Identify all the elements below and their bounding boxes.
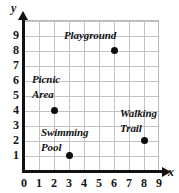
point-label-line: Trail	[120, 123, 157, 135]
y-tick-9: 9	[6, 29, 19, 41]
y-axis-arrow-icon	[18, 11, 28, 20]
x-tick-4: 4	[78, 177, 90, 189]
y-tick-5: 5	[6, 89, 19, 101]
point-label-line: Playground	[64, 30, 116, 42]
data-point	[111, 47, 118, 54]
point-label-line: Swimming	[41, 127, 89, 139]
y-tick-4: 4	[6, 104, 19, 116]
point-label: PicnicArea	[32, 74, 60, 100]
x-tick-1: 1	[33, 177, 45, 189]
y-tick-1: 1	[6, 149, 19, 161]
y-tick-8: 8	[6, 44, 19, 56]
x-tick-7: 7	[123, 177, 135, 189]
y-tick-6: 6	[6, 74, 19, 86]
x-axis-arrow-icon	[162, 167, 171, 177]
y-tick-2: 2	[6, 134, 19, 146]
y-tick-3: 3	[6, 119, 19, 131]
x-tick-8: 8	[138, 177, 150, 189]
point-label: WalkingTrail	[120, 108, 157, 134]
data-point	[141, 137, 148, 144]
x-tick-5: 5	[93, 177, 105, 189]
point-label: Playground	[64, 30, 116, 42]
x-tick-6: 6	[108, 177, 120, 189]
x-axis-line	[22, 170, 164, 173]
point-label-line: Picnic	[32, 74, 60, 86]
point-label-line: Walking	[120, 108, 157, 120]
x-tick-2: 2	[48, 177, 60, 189]
y-tick-7: 7	[6, 59, 19, 71]
point-label-line: Area	[32, 89, 60, 101]
point-label-line: Pool	[41, 142, 89, 154]
coordinate-plane-chart: y x 0123456789 123456789 PlaygroundPicni…	[0, 0, 179, 193]
x-tick-3: 3	[63, 177, 75, 189]
y-axis-line	[22, 17, 25, 173]
point-label: SwimmingPool	[41, 127, 89, 153]
x-tick-9: 9	[153, 177, 165, 189]
data-point	[51, 107, 58, 114]
y-axis-label: y	[11, 2, 16, 14]
x-tick-0: 0	[18, 177, 30, 189]
